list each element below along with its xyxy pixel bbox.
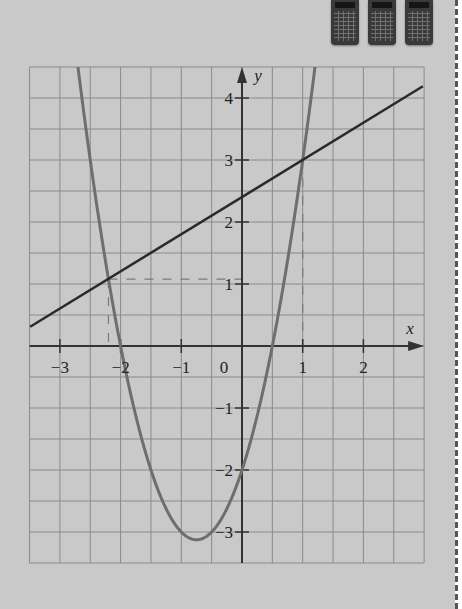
y-tick-label: 2 [225,213,234,232]
x-tick-label: −1 [172,358,190,377]
x-axis-arrow-icon [408,341,424,351]
plotted-series [30,0,425,540]
y-tick-label: −3 [215,523,233,542]
x-axis-label: x [405,319,414,338]
x-tick-label: 2 [359,358,368,377]
y-axis-label: y [252,66,262,85]
chart: −3−2−1124321−1−2−30xy [0,0,462,609]
y-tick-label: 1 [225,275,234,294]
origin-label: 0 [220,358,229,377]
y-tick-label: 3 [225,151,234,170]
x-tick-label: −2 [112,358,130,377]
y-axis-arrow-icon [237,67,247,83]
x-tick-label: 1 [298,358,307,377]
x-tick-label: −3 [51,358,69,377]
tick-labels: −3−2−1124321−1−2−30xy [51,66,414,542]
y-tick-label: −1 [215,399,233,418]
y-tick-label: 4 [225,89,234,108]
parabola-curve [30,0,425,540]
y-tick-label: −2 [215,461,233,480]
